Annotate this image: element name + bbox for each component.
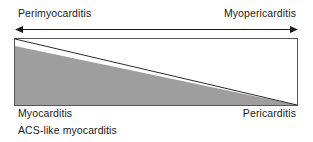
label-myopericarditis: Myopericarditis [224, 7, 296, 19]
label-myocarditis: Myocarditis [18, 107, 72, 119]
label-acs-like-myocarditis: ACS-like myocarditis [18, 124, 117, 136]
overlap-wedge-diagram [14, 36, 299, 108]
label-pericarditis: Pericarditis [243, 107, 296, 119]
label-perimyocarditis: Perimyocarditis [18, 7, 91, 19]
spectrum-figure: Perimyocarditis Myopericarditis Myocardi… [0, 0, 313, 142]
